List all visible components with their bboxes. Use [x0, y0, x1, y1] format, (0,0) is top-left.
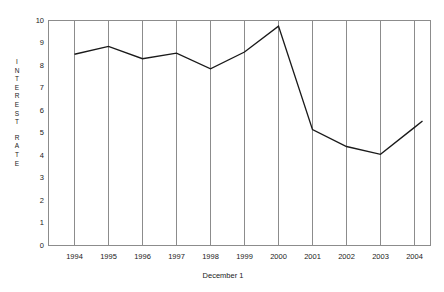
line-chart: INTERESTRATE 109876543210 19941995199619…: [0, 0, 444, 292]
x-axis-tick-label: 2004: [395, 252, 435, 261]
x-axis-title-text: December 1: [203, 271, 244, 280]
x-axis-tick-labels: 1994199519961997199819992000200120022003…: [0, 0, 444, 292]
x-axis-title: December 1: [0, 271, 444, 280]
